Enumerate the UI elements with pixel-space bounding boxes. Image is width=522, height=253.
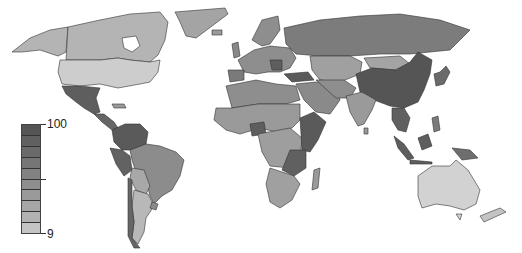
region-mexico (62, 86, 100, 114)
region-europe (238, 46, 296, 74)
region-united-states (58, 58, 160, 88)
region-argentina (132, 190, 154, 244)
region-tasmania (456, 214, 462, 220)
legend-bin (22, 169, 40, 180)
region-russia (284, 14, 470, 56)
legend-bin (22, 180, 40, 191)
region-alaska (12, 27, 68, 56)
region-sumatra (394, 136, 414, 160)
world-choropleth-map (0, 0, 522, 253)
legend-bin (22, 125, 40, 136)
legend-bin (22, 201, 40, 212)
region-sri-lanka (364, 128, 368, 134)
region-scandinavia (252, 16, 280, 46)
region-borneo (418, 134, 432, 150)
legend-tick-min (41, 233, 46, 234)
region-new-zealand (480, 208, 506, 222)
region-australia (418, 160, 480, 210)
region-central-asia (310, 56, 362, 82)
legend-max-label: 100 (47, 118, 67, 130)
region-turkey (284, 72, 314, 82)
legend-tick-max (41, 124, 46, 125)
legend-bin (22, 147, 40, 158)
region-caribbean (112, 104, 126, 108)
region-spain (228, 70, 244, 82)
region-peru-ecuador (110, 148, 132, 176)
legend-bin (22, 223, 40, 233)
legend-bin (22, 190, 40, 201)
region-japan-korea (434, 66, 450, 86)
region-central-america (94, 114, 118, 130)
region-iceland (212, 30, 222, 35)
region-java (410, 160, 432, 164)
region-balkans (270, 60, 282, 70)
region-canada (66, 12, 168, 62)
region-madagascar (312, 168, 320, 190)
legend-bin (22, 212, 40, 223)
region-uk (232, 42, 240, 58)
color-legend (21, 124, 41, 234)
region-east-africa (300, 112, 326, 152)
region-philippines (432, 116, 440, 132)
legend-bin (22, 158, 40, 169)
legend-bin (22, 136, 40, 147)
legend-min-label: 9 (47, 228, 54, 240)
region-new-guinea (452, 148, 478, 160)
region-india (346, 92, 376, 126)
region-southeast-asia (392, 108, 410, 132)
legend-tick-mid (41, 179, 46, 180)
